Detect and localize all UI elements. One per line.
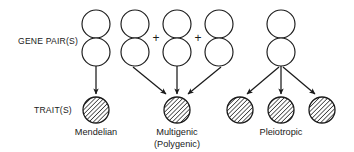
trait-circle-pleiotropic-2	[268, 97, 294, 123]
gene-circle-multigenic-3-bottom	[205, 38, 233, 66]
arrow-multigenic-1	[133, 67, 166, 94]
gene-trait-diagram: GENE PAIR(S) TRAIT(S) Mendelian + + Mult	[0, 0, 354, 152]
row-label-gene-pairs: GENE PAIR(S)	[18, 36, 78, 46]
arrow-pleiotropic-3	[283, 67, 315, 94]
gene-circle-multigenic-3-top	[205, 10, 233, 38]
trait-circle-pleiotropic-1	[227, 97, 253, 123]
gene-circle-mendelian-top	[82, 10, 110, 38]
group-multigenic: + + Multigenic (Polygenic)	[121, 10, 233, 149]
gene-circle-mendelian-bottom	[82, 38, 110, 66]
category-sublabel-polygenic: (Polygenic)	[154, 139, 200, 149]
plus-operator-1: +	[152, 31, 159, 45]
gene-circle-pleiotropic-top	[267, 10, 295, 38]
trait-circle-pleiotropic-3	[309, 97, 335, 123]
arrow-multigenic-3	[188, 67, 221, 94]
arrow-pleiotropic-1	[247, 67, 279, 94]
row-label-traits: TRAIT(S)	[34, 105, 72, 115]
plus-operator-2: +	[194, 31, 201, 45]
gene-circle-multigenic-1-top	[121, 10, 149, 38]
gene-circle-pleiotropic-bottom	[267, 38, 295, 66]
trait-circle-multigenic	[164, 97, 190, 123]
gene-circle-multigenic-2-bottom	[163, 38, 191, 66]
category-label-mendelian: Mendelian	[75, 127, 117, 137]
group-pleiotropic: Pleiotropic	[227, 10, 335, 137]
trait-circle-mendelian	[83, 97, 109, 123]
diagram-canvas: GENE PAIR(S) TRAIT(S) Mendelian + + Mult	[0, 0, 354, 152]
gene-circle-multigenic-1-bottom	[121, 38, 149, 66]
group-mendelian: Mendelian	[75, 10, 117, 137]
category-label-pleiotropic: Pleiotropic	[260, 127, 303, 137]
gene-circle-multigenic-2-top	[163, 10, 191, 38]
category-label-multigenic: Multigenic	[156, 127, 198, 137]
